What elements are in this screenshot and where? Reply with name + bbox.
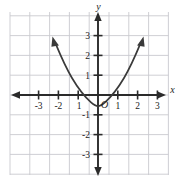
x-axis	[11, 91, 166, 98]
x-tick-label: -2	[54, 101, 62, 111]
x-axis-label: x	[169, 84, 175, 95]
x-tick-label: 1	[115, 101, 120, 111]
y-axis-arrow-up-icon	[94, 12, 101, 21]
coordinate-plane-figure: -3 -2 1 1 2 3 3 2 1 -1 -2 -3 O x y	[0, 0, 179, 182]
parabola-arrow-left-icon	[51, 37, 59, 47]
x-tick-label: 3	[155, 101, 160, 111]
graph-canvas: -3 -2 1 1 2 3 3 2 1 -1 -2 -3 O x y	[0, 0, 179, 182]
origin-label: O	[101, 99, 108, 110]
x-tick-label: 1	[77, 101, 82, 111]
y-tick-label: 2	[85, 51, 90, 61]
y-axis-label: y	[95, 1, 101, 12]
y-tick-label: -2	[82, 130, 90, 140]
x-axis-arrow-left-icon	[11, 91, 20, 98]
y-tick-label: 3	[85, 31, 90, 41]
y-tick-label: -3	[82, 150, 90, 160]
y-tick-label: -1	[82, 110, 90, 120]
x-tick-label: 2	[135, 101, 140, 111]
x-axis-arrow-right-icon	[157, 91, 166, 98]
y-tick-label: 1	[85, 71, 90, 81]
parabola-arrow-right-icon	[137, 37, 145, 47]
x-tick-label: -3	[35, 101, 43, 111]
y-axis	[94, 12, 101, 176]
